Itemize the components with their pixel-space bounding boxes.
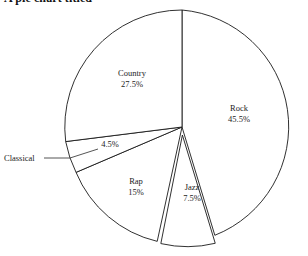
pie-slice-country[interactable]: [65, 10, 182, 142]
pie-chart-graphic: [0, 0, 308, 256]
pie-chart-figure: A pie chart titled Country 27.5% Rock 45…: [0, 0, 308, 256]
